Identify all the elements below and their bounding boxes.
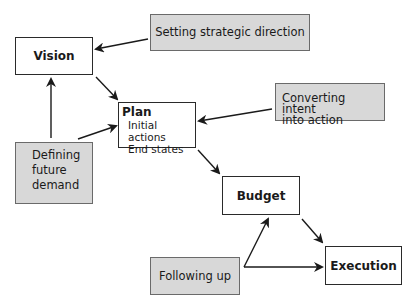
setting-direction-label: Setting strategic direction — [155, 26, 305, 39]
budget-node: Budget — [222, 176, 300, 215]
vision-node: Vision — [15, 37, 93, 75]
execution-label: Execution — [330, 259, 396, 273]
arrow-setting-to-vision — [96, 39, 148, 49]
arrow-following-to-budget — [244, 219, 268, 267]
setting-direction-annotation: Setting strategic direction — [150, 14, 310, 51]
defining-line-3: demand — [32, 178, 76, 193]
following-up-label: Following up — [159, 270, 231, 283]
execution-node: Execution — [325, 246, 402, 285]
following-up-annotation: Following up — [150, 257, 240, 295]
converting-line-2: into action — [282, 115, 378, 126]
plan-node: Plan Initial actions End states — [118, 102, 196, 148]
plan-label: Plan — [122, 106, 192, 119]
arrow-plan-to-budget — [198, 150, 219, 173]
converting-intent-annotation: Converting intent into action — [275, 83, 385, 121]
vision-label: Vision — [33, 49, 74, 63]
arrow-budget-to-execution — [302, 219, 322, 242]
defining-line-2: future — [32, 163, 76, 178]
plan-item-end-states: End states — [122, 143, 192, 155]
budget-label: Budget — [237, 189, 286, 203]
arrow-converting-to-plan — [199, 109, 272, 121]
arrow-defining-to-plan — [78, 126, 116, 139]
converting-line-1: Converting intent — [282, 93, 378, 115]
defining-demand-annotation: Defining future demand — [15, 142, 93, 204]
plan-item-initial-actions: Initial actions — [122, 119, 192, 143]
defining-line-1: Defining — [32, 148, 76, 163]
arrow-vision-to-plan — [96, 77, 117, 99]
